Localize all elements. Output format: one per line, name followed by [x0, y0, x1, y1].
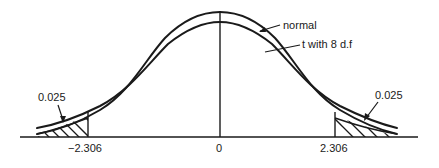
- normal-curve: [37, 12, 397, 134]
- t-vs-normal-diagram: normal t with 8 d.f 0.025 0.025 −2.306 0…: [0, 0, 439, 168]
- t-8df-label: t with 8 d.f: [302, 38, 353, 50]
- left-area-label: 0.025: [38, 91, 66, 103]
- normal-label: normal: [283, 19, 317, 31]
- right-area-label: 0.025: [375, 89, 403, 101]
- tick-right: 2.306: [320, 142, 348, 154]
- tick-center: 0: [216, 142, 222, 154]
- tick-left: −2.306: [68, 142, 102, 154]
